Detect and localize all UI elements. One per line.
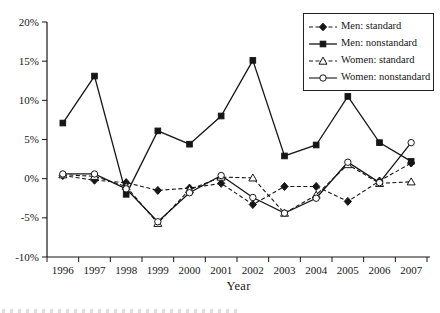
legend-item-women-nonstandard: Women: nonstandard (309, 70, 429, 85)
svg-text:1997: 1997 (84, 264, 107, 276)
svg-text:5%: 5% (24, 133, 39, 145)
legend-label-women-nonstandard: Women: nonstandard (341, 72, 430, 83)
svg-text:-5%: -5% (21, 211, 39, 223)
svg-text:2002: 2002 (242, 264, 264, 276)
svg-text:20%: 20% (19, 16, 39, 28)
svg-text:0%: 0% (24, 172, 39, 184)
legend-item-men-nonstandard: Men: nonstandard (309, 36, 429, 51)
legend-label-men-standard: Men: standard (341, 21, 401, 32)
svg-text:1996: 1996 (52, 264, 75, 276)
legend-item-women-standard: Women: standard (309, 53, 429, 68)
triangle-marker-icon (309, 56, 337, 66)
chart-legend: Men: standard Men: nonstandard Women: st… (303, 13, 434, 91)
svg-text:2005: 2005 (337, 264, 360, 276)
svg-text:1999: 1999 (147, 264, 170, 276)
diamond-marker-icon (309, 22, 337, 32)
legend-label-men-nonstandard: Men: nonstandard (341, 38, 417, 49)
svg-text:10%: 10% (19, 94, 39, 106)
legend-label-women-standard: Women: standard (341, 55, 415, 66)
figure-page: -10%-5%0%5%10%15%20%19961997199819992000… (0, 0, 440, 313)
svg-text:2001: 2001 (210, 264, 232, 276)
svg-text:15%: 15% (19, 55, 39, 67)
square-marker-icon (309, 39, 337, 49)
svg-text:-10%: -10% (15, 251, 39, 263)
cropped-caption-remnant (2, 309, 237, 313)
legend-item-men-standard: Men: standard (309, 19, 429, 34)
svg-text:2006: 2006 (369, 264, 392, 276)
circle-marker-icon (309, 73, 337, 83)
x-axis-title: Year (47, 279, 430, 294)
svg-text:2004: 2004 (305, 264, 328, 276)
svg-text:1998: 1998 (115, 264, 138, 276)
svg-text:2000: 2000 (179, 264, 202, 276)
svg-text:2007: 2007 (400, 264, 423, 276)
svg-text:2003: 2003 (274, 264, 297, 276)
